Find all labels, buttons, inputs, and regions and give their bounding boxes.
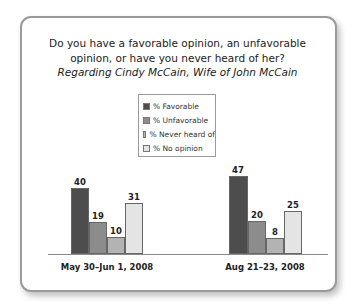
bar-label-g1-no-opinion: 31 [125, 192, 143, 202]
bar-g1-never-heard [107, 237, 125, 254]
chart-title: Do you have a favorable opinion, an unfa… [20, 36, 335, 80]
bar-g2-unfavorable [248, 221, 266, 254]
bar-label-g1-unfavorable: 19 [89, 211, 107, 221]
legend-item-no-opinion: % No opinion [143, 141, 215, 155]
x-category-label-1: May 30–Jun 1, 2008 [42, 262, 172, 272]
chart-subtitle: Regarding Cindy McCain, Wife of John McC… [20, 65, 335, 80]
legend-item-unfavorable: % Unfavorable [143, 113, 215, 127]
legend-label: % No opinion [153, 144, 203, 153]
x-category-label-2: Aug 21–23, 2008 [200, 262, 330, 272]
legend-item-never-heard: % Never heard of [143, 127, 215, 141]
legend-swatch-unfavorable [143, 117, 150, 124]
bar-g2-favorable [229, 176, 248, 254]
bar-g1-favorable [71, 188, 89, 254]
title-line-2: opinion, or have you never heard of her? [20, 51, 335, 66]
legend-label: % Favorable [153, 102, 199, 111]
legend-label: % Never heard of [149, 130, 215, 139]
legend-label: % Unfavorable [153, 116, 208, 125]
bar-g2-never-heard [266, 238, 284, 254]
bar-label-g2-unfavorable: 20 [248, 210, 266, 220]
bar-label-g2-never-heard: 8 [266, 227, 284, 237]
legend-swatch-no-opinion [143, 145, 150, 152]
bar-label-g1-favorable: 40 [71, 177, 89, 187]
bar-g1-unfavorable [89, 222, 107, 254]
bar-label-g1-never-heard: 10 [107, 226, 125, 236]
legend-swatch-never-heard [143, 131, 146, 138]
legend-item-favorable: % Favorable [143, 99, 215, 113]
bar-label-g2-favorable: 47 [229, 165, 247, 175]
legend: % Favorable % Unfavorable % Never heard … [138, 94, 216, 157]
bar-g2-no-opinion [284, 211, 302, 254]
x-axis-baseline [48, 254, 328, 255]
bar-g1-no-opinion [125, 203, 143, 254]
title-line-1: Do you have a favorable opinion, an unfa… [20, 36, 335, 51]
bar-label-g2-no-opinion: 25 [284, 200, 302, 210]
legend-swatch-favorable [143, 103, 150, 110]
